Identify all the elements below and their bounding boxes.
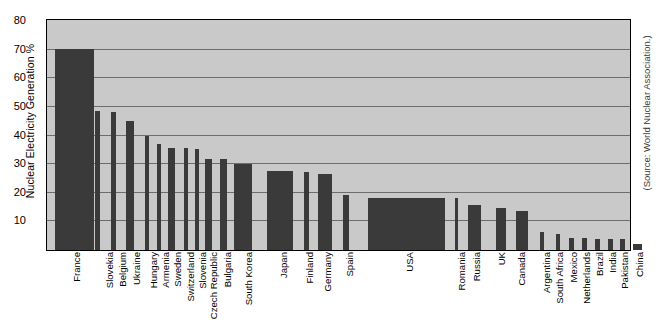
x-label-romania: Romania — [457, 252, 467, 290]
x-label-india: India — [608, 252, 618, 273]
bar-czech-republic — [205, 159, 212, 249]
y-tick-20: 20 — [0, 187, 26, 198]
bar-south-korea — [234, 164, 252, 250]
x-label-bulgaria: Bulgaria — [223, 252, 233, 287]
x-label-spain: Spain — [345, 252, 355, 277]
x-label-south-korea: South Korea — [244, 252, 254, 305]
bar-south-africa — [556, 234, 560, 250]
y-tick-30: 30 — [0, 158, 26, 169]
bar-pakistan — [620, 239, 625, 249]
y-tick-10: 10 — [0, 215, 26, 226]
bar-ukraine — [126, 121, 134, 250]
x-label-germany: Germany — [323, 252, 333, 291]
bar-sweden — [168, 148, 175, 250]
source-note: (Source: World Nuclear Association.) — [641, 11, 652, 191]
bar-japan — [267, 171, 293, 250]
x-label-belgium: Belgium — [118, 252, 128, 287]
x-label-brazil: Brazil — [595, 252, 605, 276]
y-tick-50: 50 — [0, 101, 26, 112]
bar-usa — [368, 198, 445, 250]
x-label-finland: Finland — [305, 252, 315, 283]
bar-china — [633, 244, 642, 250]
x-label-slovekia: Slovekia — [105, 252, 115, 288]
y-tick-80: 80 — [0, 15, 26, 26]
x-label-canada: Canada — [517, 252, 527, 286]
bar-germany — [318, 174, 332, 250]
x-label-mexico: Mexico — [569, 252, 579, 282]
x-label-slovenia: Slovenia — [198, 252, 208, 289]
bar-uk — [496, 208, 506, 250]
x-label-uk: UK — [497, 252, 507, 265]
x-label-south-africa: South Africa — [555, 252, 565, 304]
bar-finland — [304, 172, 309, 249]
bar-canada — [516, 211, 528, 250]
nuclear-electricity-generation-chart: Nuclear Electricity Generation % 1020304… — [0, 0, 660, 331]
x-label-russia: Russia — [472, 252, 482, 281]
x-label-argentina: Argentina — [542, 252, 552, 293]
x-label-china: China — [635, 252, 645, 277]
bar-hungary — [145, 136, 149, 249]
bar-armenia — [157, 144, 161, 250]
bar-switzerland — [184, 148, 188, 250]
x-label-usa: USA — [405, 252, 415, 272]
x-label-france: France — [72, 252, 82, 282]
x-label-japan: Japan — [279, 252, 289, 278]
bar-russia — [468, 205, 481, 249]
bar-belgium — [111, 112, 116, 249]
y-tick-70: 70 — [0, 44, 26, 55]
x-label-ukraine: Ukraine — [132, 252, 142, 285]
bar-bulgaria — [220, 159, 227, 249]
bar-spain — [343, 195, 349, 249]
y-tick-60: 60 — [0, 72, 26, 83]
bar-series — [48, 21, 630, 250]
bar-mexico — [569, 238, 574, 249]
bar-romania — [455, 198, 458, 250]
bar-france — [55, 49, 94, 249]
x-label-sweden: Sweden — [173, 252, 183, 287]
x-label-netherlands: Netherlands — [582, 252, 592, 304]
x-axis-category-labels: FranceSlovekiaBelgiumUkraineHungaryArmen… — [0, 252, 660, 331]
bar-netherlands — [582, 238, 587, 249]
y-tick-40: 40 — [0, 130, 26, 141]
x-label-switzerland: Switzerland — [186, 252, 196, 302]
x-label-pakistan: Pakistan — [620, 252, 630, 289]
x-label-armenia: Armenia — [161, 252, 171, 288]
bar-brazil — [595, 239, 600, 249]
bar-slovenia — [195, 149, 199, 249]
bar-india — [608, 239, 613, 249]
bar-slovekia — [95, 111, 100, 250]
x-label-czech-republic: Czech Republic — [209, 252, 219, 319]
bar-argentina — [540, 232, 544, 249]
x-label-hungary: Hungary — [149, 252, 159, 288]
